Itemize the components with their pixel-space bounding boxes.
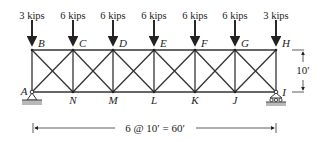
node-label-G: G [241,37,249,49]
truss-diagram: 3 kips 6 kips 6 kips 6 kips 6 kips 6 kip… [0,0,326,141]
height-label: 10′ [296,64,309,76]
load-arrows [32,20,276,45]
node-label-A: A [20,85,28,97]
node-label-M: M [107,94,118,106]
load-labels: 3 kips 6 kips 6 kips 6 kips 6 kips 6 kip… [19,10,288,21]
node-label-N: N [68,94,77,106]
node-label-H: H [281,37,291,49]
span-label: 6 @ 10′ = 60′ [125,122,185,134]
truss-members [32,50,276,92]
load-label-F: 6 kips [182,10,207,21]
node-label-L: L [150,94,157,106]
node-label-D: D [118,37,127,49]
node-label-J: J [233,94,239,106]
node-label-I: I [281,86,287,98]
node-label-B: B [38,37,45,49]
top-node-labels: B C D E F G H [38,37,291,49]
load-label-B: 3 kips [19,10,44,21]
node-label-F: F [200,37,208,49]
load-label-C: 6 kips [60,10,85,21]
load-label-D: 6 kips [100,10,125,21]
node-label-E: E [159,37,167,49]
load-label-H: 3 kips [263,10,288,21]
load-label-E: 6 kips [141,10,166,21]
node-label-C: C [79,37,87,49]
node-label-K: K [190,94,199,106]
load-label-G: 6 kips [222,10,247,21]
